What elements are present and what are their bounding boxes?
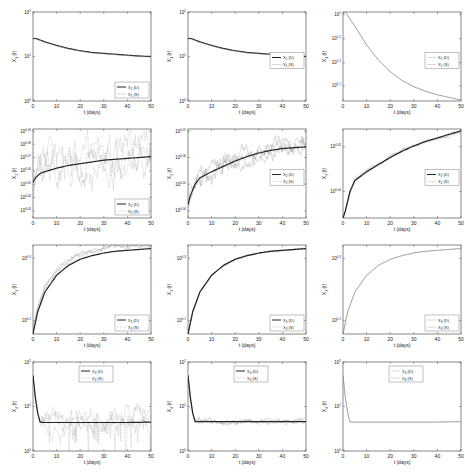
- legend: X2 (D)X2 (S): [115, 199, 149, 215]
- svg-text:40: 40: [280, 453, 286, 459]
- svg-text:20: 20: [77, 453, 83, 459]
- svg-text:40: 40: [280, 103, 286, 109]
- svg-text:10: 10: [209, 220, 215, 226]
- subplot-r3c2: 01020304050t (days)100.3100.1X3 (t)X3 (D…: [155, 233, 310, 354]
- svg-text:30: 30: [101, 220, 107, 226]
- svg-text:t (days): t (days): [394, 226, 411, 232]
- svg-text:10: 10: [54, 103, 60, 109]
- svg-text:100.06: 100.06: [20, 167, 31, 173]
- svg-text:100.3: 100.3: [332, 255, 342, 261]
- subplot-r1c1: 01020304050t (days)102101100X1 (t)X1 (D)…: [0, 0, 155, 121]
- svg-text:0: 0: [342, 220, 345, 226]
- svg-text:20: 20: [77, 220, 83, 226]
- svg-text:50: 50: [148, 103, 154, 109]
- svg-text:X4 (t): X4 (t): [321, 400, 329, 412]
- svg-text:10: 10: [54, 453, 60, 459]
- svg-text:X1 (t): X1 (t): [321, 50, 329, 62]
- svg-text:20: 20: [387, 103, 393, 109]
- svg-text:0: 0: [32, 336, 35, 342]
- svg-text:30: 30: [101, 103, 107, 109]
- svg-text:100.1: 100.1: [177, 317, 187, 323]
- legend: X3 (D)X3 (S): [425, 315, 459, 331]
- legend: X1 (D)X1 (S): [270, 53, 304, 69]
- svg-text:40: 40: [280, 220, 286, 226]
- svg-text:10: 10: [54, 336, 60, 342]
- svg-text:102: 102: [24, 9, 31, 15]
- svg-text:100.04: 100.04: [175, 207, 186, 213]
- svg-text:40: 40: [435, 103, 441, 109]
- subplot-r4c1: 01020304050t (days)102101100X4 (t)X4 (D)…: [0, 350, 155, 471]
- svg-text:101: 101: [24, 53, 31, 59]
- svg-text:20: 20: [232, 103, 238, 109]
- svg-text:X2 (t): X2 (t): [11, 167, 19, 179]
- subplot-r2c1: 01020304050t (days)100.09100.08100.07100…: [0, 117, 155, 238]
- svg-text:40: 40: [125, 336, 131, 342]
- svg-text:20: 20: [387, 336, 393, 342]
- svg-text:40: 40: [125, 103, 131, 109]
- subplot-r2c3: 01020304050t (days)100.05100.04X2 (t)X2 …: [310, 117, 465, 238]
- svg-text:t (days): t (days): [84, 342, 101, 348]
- svg-text:20: 20: [232, 453, 238, 459]
- svg-text:X3 (t): X3 (t): [11, 283, 19, 295]
- svg-text:102: 102: [179, 359, 186, 365]
- svg-text:100.05: 100.05: [175, 181, 186, 187]
- svg-text:40: 40: [125, 453, 131, 459]
- svg-text:40: 40: [125, 220, 131, 226]
- svg-text:100.04: 100.04: [20, 194, 31, 200]
- svg-text:40: 40: [435, 220, 441, 226]
- subplot-r2c2: 01020304050t (days)100.07100.06100.05100…: [155, 117, 310, 238]
- svg-text:40: 40: [435, 336, 441, 342]
- svg-text:10: 10: [364, 103, 370, 109]
- svg-text:10: 10: [209, 103, 215, 109]
- svg-text:t (days): t (days): [394, 109, 411, 115]
- legend: X4 (D)X4 (S): [79, 366, 113, 382]
- svg-text:X1 (t): X1 (t): [166, 50, 174, 62]
- svg-text:101: 101: [179, 53, 186, 59]
- svg-text:t (days): t (days): [84, 459, 101, 465]
- svg-text:X3 (t): X3 (t): [321, 283, 329, 295]
- svg-text:50: 50: [148, 220, 154, 226]
- svg-text:30: 30: [256, 220, 262, 226]
- svg-text:100.1: 100.1: [332, 317, 342, 323]
- svg-text:0: 0: [187, 220, 190, 226]
- svg-text:0: 0: [32, 220, 35, 226]
- svg-text:100: 100: [24, 448, 31, 454]
- svg-text:0: 0: [187, 103, 190, 109]
- svg-text:30: 30: [256, 103, 262, 109]
- svg-text:101: 101: [179, 403, 186, 409]
- svg-text:30: 30: [101, 336, 107, 342]
- subplot-r3c1: 01020304050t (days)100.3100.1X3 (t)X3 (D…: [0, 233, 155, 354]
- svg-text:50: 50: [148, 453, 154, 459]
- svg-text:30: 30: [411, 220, 417, 226]
- svg-text:20: 20: [77, 103, 83, 109]
- svg-text:10: 10: [364, 336, 370, 342]
- svg-text:101: 101: [334, 403, 341, 409]
- svg-text:t (days): t (days): [84, 109, 101, 115]
- svg-text:100: 100: [179, 98, 186, 104]
- svg-text:0: 0: [342, 453, 345, 459]
- svg-text:20: 20: [387, 453, 393, 459]
- svg-text:100.07: 100.07: [20, 154, 31, 160]
- legend: X1 (D)X1 (S): [115, 82, 149, 98]
- svg-text:0: 0: [32, 103, 35, 109]
- svg-text:30: 30: [411, 336, 417, 342]
- svg-text:50: 50: [148, 336, 154, 342]
- svg-text:100: 100: [334, 448, 341, 454]
- svg-text:100.1: 100.1: [22, 317, 32, 323]
- svg-text:t (days): t (days): [84, 226, 101, 232]
- svg-text:50: 50: [458, 103, 464, 109]
- svg-text:100.05: 100.05: [330, 143, 341, 149]
- svg-text:50: 50: [458, 453, 464, 459]
- svg-text:10: 10: [364, 453, 370, 459]
- figure-grid: 01020304050t (days)102101100X1 (t)X1 (D)…: [0, 0, 465, 473]
- svg-text:X4 (t): X4 (t): [11, 400, 19, 412]
- subplot-r1c2: 01020304050t (days)102101100X1 (t)X1 (D)…: [155, 0, 310, 121]
- legend: X1 (D)X1 (S): [425, 53, 459, 69]
- svg-text:t (days): t (days): [239, 226, 256, 232]
- svg-text:30: 30: [256, 453, 262, 459]
- svg-text:100.03: 100.03: [20, 207, 31, 213]
- svg-text:101.3: 101.3: [332, 59, 342, 65]
- svg-text:30: 30: [411, 103, 417, 109]
- svg-text:101: 101: [334, 11, 341, 17]
- legend: X4 (D)X4 (S): [389, 366, 423, 382]
